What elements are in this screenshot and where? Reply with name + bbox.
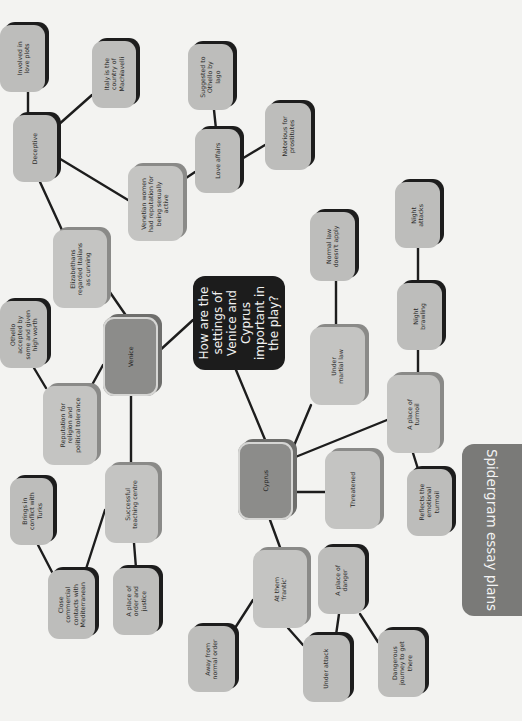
- place-order-node: A place of order and justice: [113, 568, 159, 635]
- night-brawling-node: Night brawling: [397, 283, 442, 350]
- deceptive-node: Deceptive: [13, 115, 57, 182]
- close-commercial-node: Close commercial contacts with Mediterra…: [48, 570, 95, 639]
- night-attacks-node: Night attacks: [395, 182, 440, 248]
- venice-node: Venice: [103, 317, 158, 396]
- reputation-label: Reputation for religion and political to…: [59, 398, 81, 453]
- normal-law-label: Normal law doesn't apply: [325, 226, 340, 268]
- at-them-frantic-node: At them 'frantic': [253, 550, 307, 628]
- dangerous-journey-node: Dangerous journey to get there: [378, 630, 425, 697]
- place-order-label: A place of order and justice: [125, 586, 147, 617]
- under-attack-node: Under attack: [303, 635, 350, 702]
- central-question-node: How are the settings of Venice and Cypru…: [193, 276, 285, 370]
- dangerous-journey-label: Dangerous journey to get there: [390, 642, 412, 686]
- suggested-iago-label: Suggested to Othello by Iago: [199, 56, 221, 97]
- elizabethans-label: Elizabethans regarded Italians as cunnin…: [69, 243, 91, 295]
- section-title: Spidergram essay plans: [484, 449, 500, 611]
- italy-machiavelli-label: Italy is the country of Machiavelli: [103, 57, 125, 92]
- close-commercial-label: Close commercial contacts with Mediterra…: [57, 582, 87, 627]
- under-martial-law-node: Under martial law: [310, 327, 365, 405]
- italy-machiavelli-node: Italy is the country of Machiavelli: [92, 41, 136, 108]
- at-them-frantic-label: At them 'frantic': [273, 577, 288, 602]
- night-attacks-label: Night attacks: [410, 204, 425, 227]
- place-danger-label: A place of danger: [334, 565, 349, 596]
- successful-teaching-node: Successful teaching centre: [105, 465, 158, 543]
- under-martial-law-label: Under martial law: [330, 349, 345, 384]
- under-attack-label: Under attack: [323, 648, 330, 688]
- section-title-tab: Spidergram essay plans: [462, 444, 522, 616]
- reputation-node: Reputation for religion and political to…: [43, 386, 97, 465]
- place-turmoil-label: A place of turmoil: [406, 399, 421, 430]
- notorious-node: Notorious for prostitutes: [265, 103, 311, 170]
- place-turmoil-node: A place of turmoil: [387, 375, 440, 453]
- away-normal-order-node: Away from normal order: [188, 626, 235, 692]
- deceptive-label: Deceptive: [31, 133, 38, 164]
- brings-conflict-node: Brings in conflict with Turks: [10, 478, 53, 545]
- venetian-women-label: Venetian women had reputation for being …: [141, 175, 171, 231]
- reflects-turmoil-label: Reflects the emotional turmoil: [418, 484, 440, 521]
- suggested-iago-node: Suggested to Othello by Iago: [188, 44, 233, 110]
- involved-love-plots-label: Involved in love plots: [15, 42, 30, 76]
- brings-conflict-label: Brings in conflict with Turks: [20, 493, 42, 531]
- elizabethans-node: Elizabethans regarded Italians as cunnin…: [53, 230, 107, 308]
- cyprus-node: Cyprus: [238, 442, 293, 520]
- central-question-text: How are the settings of Venice and Cypru…: [197, 286, 281, 360]
- place-danger-node: A place of danger: [318, 547, 365, 614]
- othello-accepted-label: Othello accepted by some and given high …: [9, 310, 39, 359]
- love-affairs-label: Love affairs: [214, 143, 221, 179]
- reflects-turmoil-node: Reflects the emotional turmoil: [407, 469, 452, 536]
- threatened-label: Threatened: [349, 472, 356, 508]
- othello-accepted-node: Othello accepted by some and given high …: [0, 301, 47, 368]
- away-normal-order-label: Away from normal order: [204, 639, 219, 679]
- love-affairs-node: Love affairs: [195, 129, 240, 193]
- notorious-label: Notorious for prostitutes: [281, 116, 296, 156]
- normal-law-node: Normal law doesn't apply: [310, 212, 355, 281]
- involved-love-plots-node: Involved in love plots: [0, 25, 45, 92]
- venetian-women-node: Venetian women had reputation for being …: [128, 166, 183, 241]
- threatened-node: Threatened: [325, 451, 380, 529]
- night-brawling-label: Night brawling: [412, 303, 427, 330]
- successful-teaching-label: Successful teaching centre: [124, 480, 139, 529]
- venice-label: Venice: [127, 346, 134, 366]
- cyprus-label: Cyprus: [262, 470, 269, 492]
